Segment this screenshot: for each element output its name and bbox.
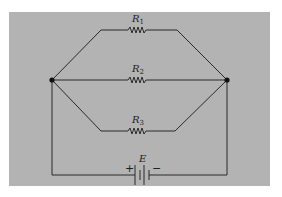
- resistor-r2: [128, 77, 146, 83]
- battery-e: [135, 165, 149, 185]
- branch-r3: R3: [52, 80, 227, 134]
- junction-node-left: [49, 77, 54, 82]
- junction-node-right: [224, 77, 229, 82]
- branch-r2: R2: [52, 63, 227, 83]
- circuit-diagram: R1 R2 R3 E + −: [0, 0, 282, 197]
- label-r2: R2: [131, 63, 144, 76]
- label-r3: R3: [131, 114, 144, 127]
- label-r1: R1: [131, 13, 144, 26]
- negative-sign: −: [152, 162, 161, 175]
- resistor-r3: [128, 128, 146, 134]
- positive-sign: +: [125, 162, 134, 175]
- resistor-r1: [128, 27, 146, 33]
- label-e: E: [138, 153, 147, 164]
